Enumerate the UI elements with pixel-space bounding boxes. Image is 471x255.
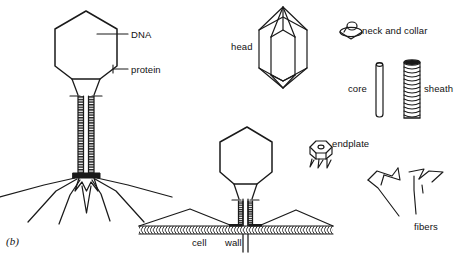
label-cell: cell [192,238,207,248]
label-fibers: fibers [414,222,438,232]
intact-phage-group [0,11,172,224]
bacteriophage-figure: DNA protein head neck and collar core sh… [0,0,471,255]
label-neck-and-collar: neck and collar [362,26,427,36]
label-core: core [348,84,367,94]
neck-and-collar-component-group [340,22,362,39]
endplate-component-group [310,141,332,168]
label-endplate: endplate [332,139,369,149]
bacteriophage-diagram-canvas [0,0,471,255]
label-protein: protein [131,65,161,75]
label-dna: DNA [131,30,151,40]
label-sheath: sheath [424,84,453,94]
attached-phage-group [139,127,333,252]
label-wall: wall [225,238,242,248]
callout-leaders [97,34,128,73]
label-head: head [231,42,253,52]
core-component-group [376,63,383,117]
panel-identifier: (b) [6,236,19,247]
sheath-component-group [404,60,420,118]
fibers-component-group [368,168,443,216]
head-component-group [259,7,307,88]
